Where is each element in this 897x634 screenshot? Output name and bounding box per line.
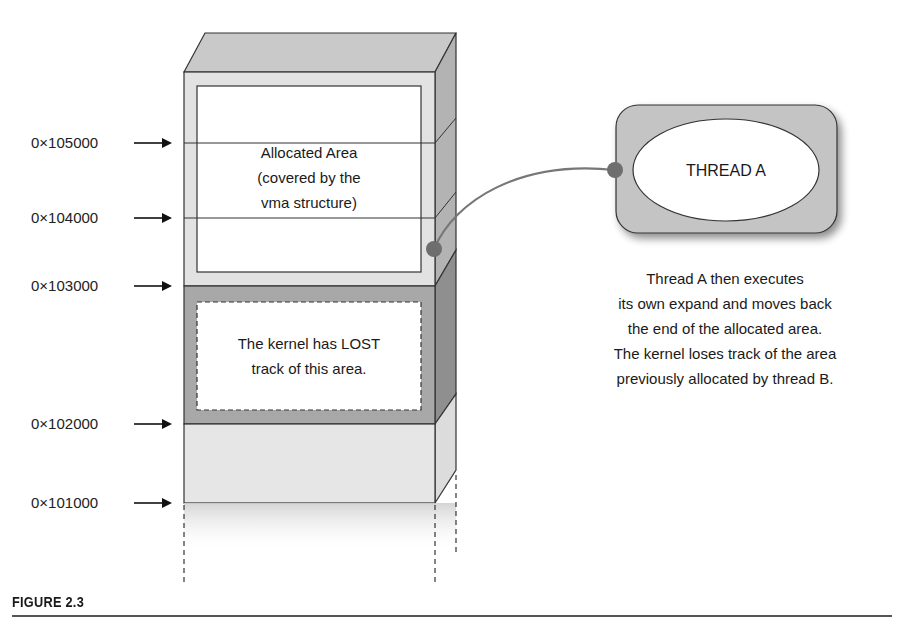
allocated-area-label: Allocated Area (covered by the vma struc…	[197, 140, 421, 215]
lost-line-1: The kernel has LOST	[197, 331, 421, 356]
thread-a-label: THREAD A	[633, 158, 819, 183]
address-arrows	[134, 138, 172, 508]
connector-dot-stack	[426, 241, 442, 257]
lost-line-2: track of this area.	[197, 356, 421, 381]
connector-curve	[434, 168, 615, 249]
address-label: 0×101000	[31, 494, 98, 511]
description-line-3: the end of the allocated area.	[560, 316, 890, 341]
address-label: 0×104000	[31, 209, 98, 226]
allocated-line-3: vma structure)	[197, 190, 421, 215]
connector-dot-thread	[607, 162, 623, 178]
figure-caption: FIGURE 2.3	[12, 593, 84, 610]
description-line-5: previously allocated by thread B.	[560, 366, 890, 391]
description-text: Thread A then executes its own expand an…	[560, 266, 890, 391]
address-label: 0×105000	[31, 134, 98, 151]
lost-area-label: The kernel has LOST track of this area.	[197, 331, 421, 381]
address-label: 0×102000	[31, 415, 98, 432]
address-label: 0×103000	[31, 277, 98, 294]
description-line-2: its own expand and moves back	[560, 291, 890, 316]
allocated-line-1: Allocated Area	[197, 140, 421, 165]
caption-rule	[12, 615, 892, 617]
stack-top-face	[184, 33, 456, 72]
allocated-line-2: (covered by the	[197, 165, 421, 190]
free-block	[184, 424, 435, 503]
description-line-4: The kernel loses track of the area	[560, 341, 890, 366]
description-line-1: Thread A then executes	[560, 266, 890, 291]
